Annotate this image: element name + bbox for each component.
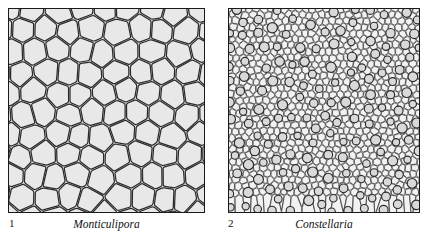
bryozoan-comparison-figure: 1 Monticulipora 2 Constellaria	[0, 0, 435, 248]
monticulipora-texture-diagram	[9, 9, 204, 212]
specimen-panel-monticulipora	[8, 8, 205, 213]
genus-label-monticulipora: Monticulipora	[8, 219, 205, 231]
specimen-panel-constellaria	[228, 8, 420, 213]
genus-label-constellaria: Constellaria	[228, 219, 420, 231]
constellaria-texture-diagram	[229, 9, 419, 212]
